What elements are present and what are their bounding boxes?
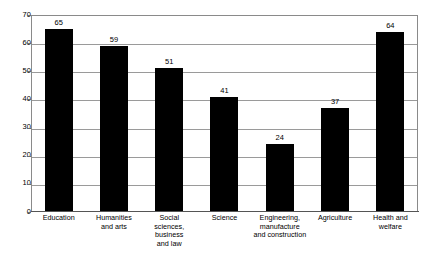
- y-axis-tick-mark: [27, 212, 31, 213]
- x-axis-category-label: Health and welfare: [357, 214, 424, 231]
- bar-slot: 41: [197, 15, 252, 212]
- bar-value-label: 24: [276, 133, 284, 142]
- bar-slot: 59: [86, 15, 141, 212]
- bar-slot: 24: [252, 15, 307, 212]
- bar-slot: 37: [307, 15, 362, 212]
- bar-slot: 65: [31, 15, 86, 212]
- bar-slot: 64: [363, 15, 418, 212]
- bar-value-label: 51: [165, 57, 173, 66]
- bar-value-label: 37: [331, 97, 339, 106]
- bar-chart: 706050403020100 65595141243764 Education…: [0, 0, 431, 262]
- bar-value-label: 65: [54, 18, 62, 27]
- bar-slot: 51: [142, 15, 197, 212]
- bar[interactable]: [210, 97, 238, 212]
- bar-value-label: 59: [110, 35, 118, 44]
- bar[interactable]: [376, 32, 404, 212]
- bar[interactable]: [266, 144, 294, 212]
- bar[interactable]: [321, 108, 349, 212]
- bar-value-label: 64: [386, 21, 394, 30]
- bar[interactable]: [45, 29, 73, 212]
- x-axis-labels: EducationHumanities and artsSocial scien…: [31, 214, 418, 262]
- bars-layer: 65595141243764: [31, 15, 418, 212]
- x-axis-baseline: [31, 211, 419, 212]
- bar[interactable]: [100, 46, 128, 212]
- bar-value-label: 41: [220, 86, 228, 95]
- y-axis: 706050403020100: [0, 0, 31, 262]
- bar[interactable]: [155, 68, 183, 212]
